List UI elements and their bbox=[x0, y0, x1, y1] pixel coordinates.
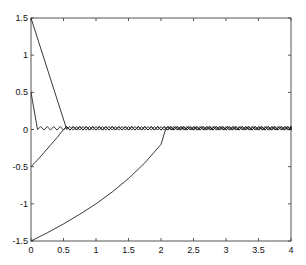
x-tick-label: 2 bbox=[158, 245, 163, 255]
y-tick-label: -1.5 bbox=[12, 236, 28, 246]
x-tick-label: 1 bbox=[93, 245, 98, 255]
x-tick-label: 1.5 bbox=[122, 245, 135, 255]
y-tick-label: -0.5 bbox=[12, 162, 28, 172]
x-tick-label: 2.5 bbox=[187, 245, 200, 255]
y-tick-label: -1 bbox=[20, 199, 28, 209]
x-tick-label: 3 bbox=[223, 245, 228, 255]
y-tick-label: 0 bbox=[23, 125, 28, 135]
x-tick-label: 0 bbox=[28, 245, 33, 255]
x-tick-label: 4 bbox=[288, 245, 293, 255]
x-tick-label: 3.5 bbox=[252, 245, 265, 255]
y-tick-label: 1.5 bbox=[15, 13, 28, 23]
y-tick-label: 0.5 bbox=[15, 87, 28, 97]
y-tick-label: 1 bbox=[23, 50, 28, 60]
x-tick-label: 0.5 bbox=[57, 245, 70, 255]
line-chart: 00.511.522.533.54 -1.5-1-0.500.511.5 bbox=[0, 0, 306, 265]
